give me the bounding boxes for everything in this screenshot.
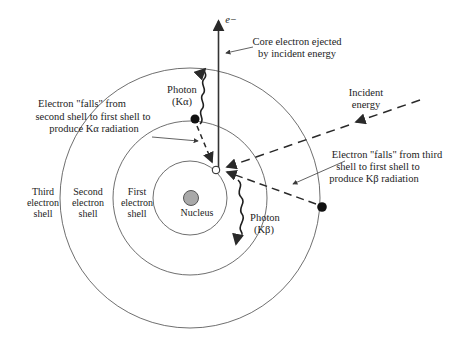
kalpha-photon-wave <box>200 69 206 124</box>
second-shell-label: Second electron shell <box>72 186 104 219</box>
xray-emission-diagram: Nucleus e− Core electron ejected by inci… <box>0 0 463 343</box>
kbeta-photon-wave <box>236 180 243 244</box>
third-shell-label-line2: electron <box>27 197 59 208</box>
photon-kalpha-label-line1: Photon <box>167 84 198 95</box>
photon-kbeta-label-line1: Photon <box>250 212 281 223</box>
second-shell-label-line1: Second <box>73 186 102 197</box>
kbeta-electron-dot <box>317 202 327 212</box>
kalpha-note-line3: produce Kα radiation <box>49 123 139 134</box>
third-shell-label: Third electron shell <box>27 186 59 219</box>
photon-kalpha-label-line2: (Kα) <box>172 96 193 108</box>
third-shell-label-line1: Third <box>32 186 54 197</box>
first-shell-label-line3: shell <box>128 208 147 219</box>
incident-energy-beam-lower <box>227 125 349 167</box>
core-ejected-label-line1: Core electron ejected <box>252 36 342 47</box>
photon-kbeta-label-line2: (Kβ) <box>254 224 274 236</box>
diagram-canvas: Nucleus e− Core electron ejected by inci… <box>0 0 463 343</box>
kbeta-note-line2: shell to first shell to <box>336 161 419 172</box>
kbeta-note-line1: Electron "falls" from third <box>332 149 443 160</box>
vacancy-circle <box>212 166 220 174</box>
kalpha-note-pointer-arrow <box>152 137 198 141</box>
incident-energy-label-line1: Incident <box>349 87 383 98</box>
kbeta-note-line3: produce Kβ radiation <box>329 173 419 184</box>
second-shell-label-line2: electron <box>72 197 104 208</box>
kalpha-fall-line <box>197 126 212 162</box>
kalpha-note-line1: Electron "falls" from <box>38 98 126 109</box>
second-shell-label-line3: shell <box>79 208 98 219</box>
core-ejected-label-line2: by incident energy <box>258 48 337 59</box>
ejected-electron-label: e− <box>225 14 237 25</box>
first-shell-label: First electron shell <box>121 186 153 219</box>
kalpha-electron-dot <box>191 115 200 124</box>
nucleus-label: Nucleus <box>181 207 214 218</box>
kalpha-note-line2: second shell to first shell to <box>35 111 150 122</box>
first-shell-label-line1: First <box>128 186 147 197</box>
nucleus-circle <box>184 191 199 206</box>
core-ejected-pointer-arrow <box>226 47 253 53</box>
incident-energy-label-line2: energy <box>352 99 381 110</box>
third-shell-label-line3: shell <box>34 208 53 219</box>
first-shell-label-line2: electron <box>121 197 153 208</box>
